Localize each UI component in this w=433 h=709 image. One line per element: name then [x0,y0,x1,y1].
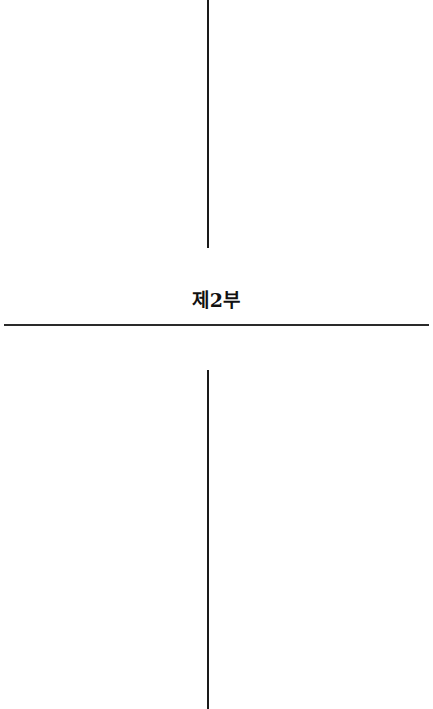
section-title: 제2부 [0,285,433,312]
vertical-rule-top [207,0,209,248]
horizontal-rule [4,324,429,326]
vertical-rule-bottom [207,370,209,709]
